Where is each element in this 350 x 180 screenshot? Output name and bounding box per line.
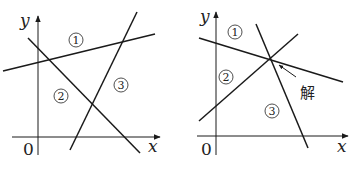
line-2 [199, 34, 298, 121]
y-axis-label: y [19, 10, 30, 30]
region-label-2: 2 [54, 89, 68, 103]
origin-label: 0 [23, 139, 34, 159]
svg-text:1: 1 [73, 34, 80, 47]
region-label-1: 1 [69, 33, 83, 47]
solution-label: 解 [300, 84, 315, 102]
svg-text:2: 2 [58, 90, 65, 103]
origin-label: 0 [201, 139, 212, 159]
left-graph: y x 0 1 2 3 [3, 10, 160, 159]
diagram-canvas: y x 0 1 2 3 解 y x 0 1 [0, 0, 350, 180]
svg-text:3: 3 [269, 105, 276, 118]
right-graph: 解 y x 0 1 2 3 [197, 6, 348, 159]
region-label-1: 1 [228, 25, 242, 39]
y-axis-label: y [199, 6, 210, 26]
svg-text:1: 1 [232, 26, 239, 39]
svg-text:3: 3 [118, 79, 125, 92]
line-2 [28, 38, 140, 153]
x-axis-label: x [148, 136, 158, 156]
svg-text:2: 2 [223, 71, 230, 84]
x-axis-label: x [337, 136, 347, 156]
region-label-3: 3 [114, 78, 128, 92]
region-label-3: 3 [265, 104, 279, 118]
region-label-2: 2 [219, 70, 233, 84]
